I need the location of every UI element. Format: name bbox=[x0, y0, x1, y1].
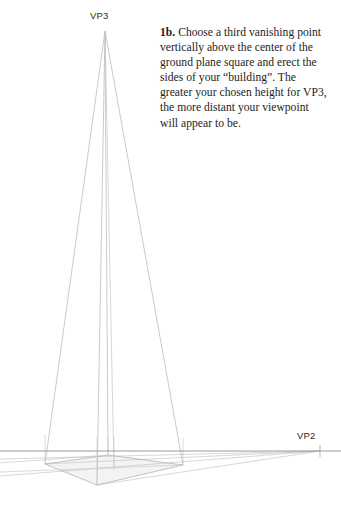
vp2-label: VP2 bbox=[297, 430, 316, 441]
caption-body-text: Choose a third vanishing point verticall… bbox=[160, 26, 327, 130]
caption-block: 1b. Choose a third vanishing point verti… bbox=[160, 25, 328, 131]
caption-lead-label: 1b. bbox=[160, 26, 175, 39]
vp3-label: VP3 bbox=[90, 10, 109, 21]
page-canvas: VP3 VP2 1b. Choose a third vanishing poi… bbox=[0, 0, 341, 508]
